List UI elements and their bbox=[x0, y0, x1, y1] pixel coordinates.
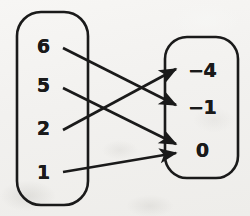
range-element-0: −4 bbox=[188, 61, 216, 80]
range-element-2: 0 bbox=[196, 141, 209, 160]
domain-element-3: 1 bbox=[37, 163, 50, 182]
domain-element-1: 5 bbox=[37, 76, 50, 95]
mapping-diagram-canvas: 6 5 2 1 −4 −1 0 bbox=[0, 0, 250, 216]
range-element-1: −1 bbox=[188, 98, 216, 117]
domain-element-2: 2 bbox=[37, 119, 50, 138]
domain-set-boundary bbox=[17, 12, 88, 205]
domain-element-0: 6 bbox=[37, 37, 50, 56]
mapping-arrow-1-to-0 bbox=[63, 153, 176, 172]
mapping-arrow-2-to-neg4 bbox=[63, 69, 176, 130]
